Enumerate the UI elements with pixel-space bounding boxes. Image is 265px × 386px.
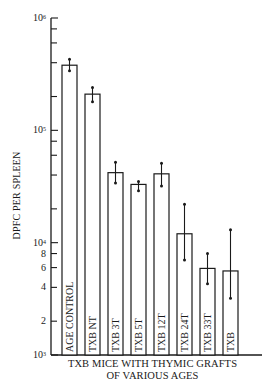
error-bar-cap-low (137, 189, 140, 192)
error-bar-cap-low (68, 69, 71, 72)
error-bar-cap-low (160, 184, 163, 187)
error-bar-cap-high (91, 86, 94, 89)
error-bar-cap-low (229, 297, 232, 300)
error-bar-cap-high (206, 252, 209, 255)
error-bar-cap-low (206, 282, 209, 285)
x-axis-title-line-2: OF VARIOUS AGES (40, 370, 265, 381)
y-tick-label-minor: 2 (16, 316, 46, 326)
bar-category-label: TXB 24T (179, 313, 190, 352)
y-tick-label-minor: 8 (16, 249, 46, 259)
bar-category-label: TXB 5T (133, 318, 144, 352)
y-tick-label-decade: 104 (16, 238, 46, 248)
bar-category-label: TXB 12T (156, 313, 167, 352)
error-bar-cap-high (160, 162, 163, 165)
bar-chart: DPFC PER SPLEEN 1061051041038642 AGE CON… (0, 0, 265, 386)
error-bar-cap-high (183, 203, 186, 206)
y-tick-label-minor: 4 (16, 282, 46, 292)
bar-category-label: TXB (225, 332, 236, 352)
y-tick-label-minor: 6 (16, 263, 46, 273)
error-bar-cap-high (137, 180, 140, 183)
error-bar-cap-high (68, 58, 71, 61)
error-bar-cap-high (229, 228, 232, 231)
y-tick-label-decade: 106 (16, 13, 46, 23)
bar-category-label: AGE CONTROL (64, 282, 75, 352)
error-bar-cap-low (91, 100, 94, 103)
bar-category-label: TXB 33T (202, 313, 213, 352)
error-bar-cap-high (114, 161, 117, 164)
x-axis-title-line-1: TXB MICE WITH THYMIC GRAFTS (40, 358, 265, 369)
y-tick-label-decade: 105 (16, 125, 46, 135)
bar-category-label: TXB NT (87, 316, 98, 352)
error-bar-cap-low (114, 181, 117, 184)
bar-category-label: TXB 3T (110, 318, 121, 352)
error-bar-cap-low (183, 259, 186, 262)
